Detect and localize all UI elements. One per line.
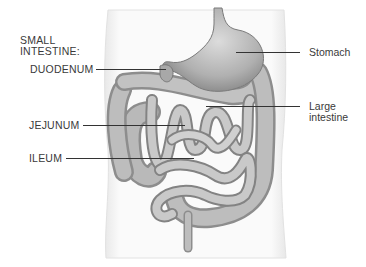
label-large-intestine-line-2: intestine (309, 112, 348, 123)
label-ileum: ILEUM (29, 153, 62, 164)
small-intestine-heading: SMALL INTESTINE: (20, 35, 80, 57)
label-duodenum: DUODENUM (30, 64, 93, 75)
leader-jejunum (83, 125, 185, 126)
label-jejunum: JEJUNUM (29, 120, 79, 131)
heading-line-2: INTESTINE: (20, 46, 80, 57)
duodenum-shape (160, 65, 173, 82)
leader-large-intestine (206, 106, 300, 107)
label-large-intestine: Large intestine (309, 101, 348, 123)
leader-ileum (66, 158, 194, 159)
label-stomach: Stomach (309, 47, 350, 58)
leader-stomach (236, 52, 300, 53)
leader-duodenum (96, 69, 166, 70)
